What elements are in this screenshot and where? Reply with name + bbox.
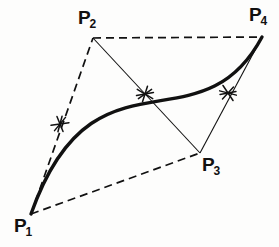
- tick-3-stroke: [221, 87, 235, 99]
- point-label-p4-subscript: 4: [260, 14, 266, 28]
- point-label-p1-subscript: 1: [25, 225, 31, 239]
- point-label-p4: P4: [249, 5, 268, 24]
- point-label-p1: P1: [14, 216, 33, 235]
- point-label-p3: P3: [202, 155, 221, 174]
- point-label-p2: P2: [78, 8, 97, 27]
- bezier-diagram: P1 P2 P3 P4: [0, 0, 279, 247]
- tick-1: [49, 114, 71, 134]
- point-label-p3-subscript: 3: [213, 164, 219, 178]
- bezier-curve: [31, 37, 262, 214]
- control-polygon-dashed-edges: [31, 37, 262, 214]
- edge-p2-p4: [93, 37, 262, 38]
- bezier-figure-canvas: [0, 0, 279, 247]
- point-label-p2-subscript: 2: [89, 17, 95, 31]
